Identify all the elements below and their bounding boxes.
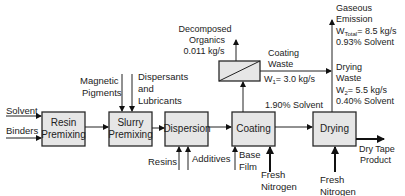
process-flow-diagram: Resin Premixing Slurry Premixing Dispers… xyxy=(0,0,405,196)
coating-waste-flow: W1= 3.0 kg/s xyxy=(264,74,316,85)
resins-label: Resins xyxy=(148,156,177,167)
product-label-2: Product xyxy=(360,155,392,165)
additives-label: Additives xyxy=(192,153,231,164)
drying-waste-label-1: Drying xyxy=(336,62,362,72)
dispersants-label-1: Dispersants xyxy=(138,71,188,82)
resin-premixing-label-2: Premixing xyxy=(41,129,85,140)
dispersion-label: Dispersion xyxy=(163,123,210,134)
solvent-label: Solvent xyxy=(6,105,38,116)
coating-waste-label-1: Coating xyxy=(268,48,299,58)
coating-waste-label-2: Waste xyxy=(268,59,293,69)
magnetic-pigments-label-1: Magnetic xyxy=(80,75,119,86)
drying-unit: Drying xyxy=(313,112,356,146)
drying-waste-flow: W2= 5.5 kg/s xyxy=(336,85,388,96)
coating-label: Coating xyxy=(236,123,270,134)
magnetic-pigments-label-2: Pigments xyxy=(82,87,122,98)
slurry-premixing-unit: Slurry Premixing xyxy=(108,112,152,146)
decomposed-organics-label-1: Decomposed xyxy=(178,24,231,34)
gaseous-emission-label-1: Gaseous xyxy=(336,3,373,13)
coating-nitrogen-label-1: Fresh xyxy=(261,169,285,180)
slurry-premixing-label-2: Premixing xyxy=(108,129,152,140)
drying-waste-solvent: 0.40% Solvent xyxy=(336,96,395,106)
resin-premixing-unit: Resin Premixing xyxy=(41,112,85,146)
base-film-label-1: Base xyxy=(239,149,261,160)
resin-premixing-label-1: Resin xyxy=(51,117,77,128)
coating-nitrogen-label-2: Nitrogen xyxy=(261,181,297,192)
slurry-premixing-label-1: Slurry xyxy=(117,117,143,128)
drying-nitrogen-label-1: Fresh xyxy=(320,174,344,185)
drying-label: Drying xyxy=(320,123,349,134)
coating-unit: Coating xyxy=(232,112,275,146)
dispersion-unit: Dispersion xyxy=(163,112,210,146)
dispersants-label-2: and xyxy=(138,83,154,94)
drying-waste-label-2: Waste xyxy=(336,73,361,83)
base-film-label-2: Film xyxy=(239,161,257,172)
gaseous-emission-flow: WTotal= 8.5 kg/s xyxy=(336,26,397,37)
coating-waste-treatment-unit xyxy=(219,61,260,81)
decomposed-organics-label-2: Organics xyxy=(189,35,226,45)
decomposed-organics-flow: 0.011 kg/s xyxy=(184,46,225,56)
product-label-1: Dry Tape xyxy=(359,144,395,154)
binders-label: Binders xyxy=(6,125,38,136)
gaseous-emission-solvent: 0.93% Solvent xyxy=(336,37,395,47)
dispersants-label-3: Lubricants xyxy=(138,95,182,106)
drying-nitrogen-label-2: Nitrogen xyxy=(320,186,356,196)
coating-solvent-label: 1.90% Solvent xyxy=(265,100,324,110)
gaseous-emission-label-2: Emission xyxy=(336,14,373,24)
